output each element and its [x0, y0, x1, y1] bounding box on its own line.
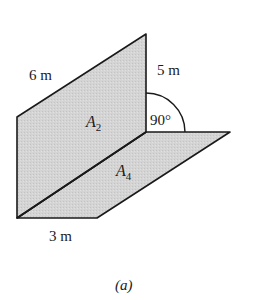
slant-edge-label: 6 m	[29, 67, 52, 83]
area-a2-subscript: 2	[96, 121, 102, 133]
bottom-edge-label: 3 m	[49, 228, 72, 244]
area-a2-base: A	[85, 113, 96, 130]
angle-label: 90°	[150, 112, 171, 128]
diagram-figure: 6 m 5 m 90° 3 m A2 A4 (a)	[0, 0, 256, 300]
diagram-canvas: 6 m 5 m 90° 3 m A2 A4 (a)	[0, 0, 256, 300]
area-a4-subscript: 4	[126, 170, 132, 182]
vertical-edge-label: 5 m	[157, 62, 180, 78]
figure-caption: (a)	[115, 277, 133, 294]
area-a4-base: A	[115, 162, 126, 179]
